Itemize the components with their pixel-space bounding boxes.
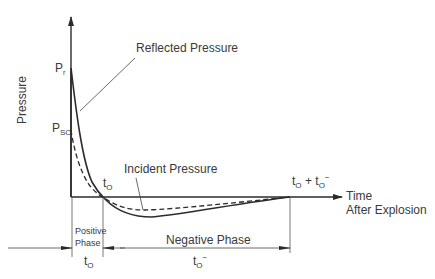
negative-duration-label: tO− [193,255,207,267]
reflected-leader-line [80,58,135,111]
reflected-pressure-label: Reflected Pressure [136,42,238,54]
negative-phase-label: Negative Phase [166,234,251,246]
incident-leader-line [136,178,143,210]
y-axis-label: Pressure [16,76,28,124]
t0-crossing-label: tO [103,177,113,189]
pr-label: Pr [55,62,65,74]
positive-phase-label-line1: Positive [75,227,107,236]
x-axis-label-time: Time [346,190,372,202]
end-time-label: tO + tO− [292,175,330,187]
pso-label: PSO [52,122,72,134]
positive-duration-label: tO [84,255,94,267]
x-axis-label-after-explosion: After Explosion [346,204,427,216]
reflected-pressure-curve [71,68,290,217]
positive-phase-label-line2: Phase [75,239,101,248]
incident-pressure-label: Incident Pressure [124,163,217,175]
